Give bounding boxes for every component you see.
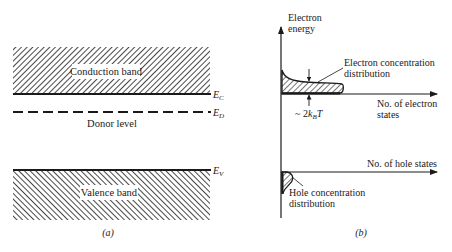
ev-label: EV <box>212 165 224 178</box>
hole-dist-label-line2: distribution <box>289 198 335 209</box>
donor-level-label: Donor level <box>87 118 137 129</box>
hole-states-label: No. of hole states <box>367 158 437 169</box>
hole-dist-leader <box>292 177 303 186</box>
energy-axis-label-line2: energy <box>288 23 315 34</box>
panel-b: Electron energy No. of electron states E… <box>281 12 437 239</box>
electron-dist-label-line2: distribution <box>344 68 390 79</box>
energy-axis-label-line1: Electron <box>288 12 322 23</box>
valence-band: Valence band EV <box>13 165 224 220</box>
conduction-band: Conduction band EC <box>13 47 224 102</box>
electron-states-label-line2: states <box>377 109 399 120</box>
donor-level: Donor level ED <box>13 107 224 129</box>
ed-label: ED <box>212 107 224 120</box>
hole-dist-label-line1: Hole concentration <box>289 187 365 198</box>
valence-band-label: Valence band <box>81 187 138 198</box>
band-diagram-figure: Conduction band EC Donor level ED Valenc… <box>0 0 452 252</box>
electron-dist-label-line1: Electron concentration <box>344 57 435 68</box>
caption-b: (b) <box>355 227 367 239</box>
conduction-band-label: Conduction band <box>70 66 143 77</box>
panel-a: Conduction band EC Donor level ED Valenc… <box>13 47 224 239</box>
electron-distribution-shape <box>282 70 343 93</box>
kbt-label: ~ 2kBT <box>295 108 324 121</box>
electron-dist-leader <box>318 68 343 82</box>
ec-label: EC <box>212 89 224 102</box>
electron-states-label-line1: No. of electron <box>377 98 437 109</box>
caption-a: (a) <box>102 227 114 239</box>
